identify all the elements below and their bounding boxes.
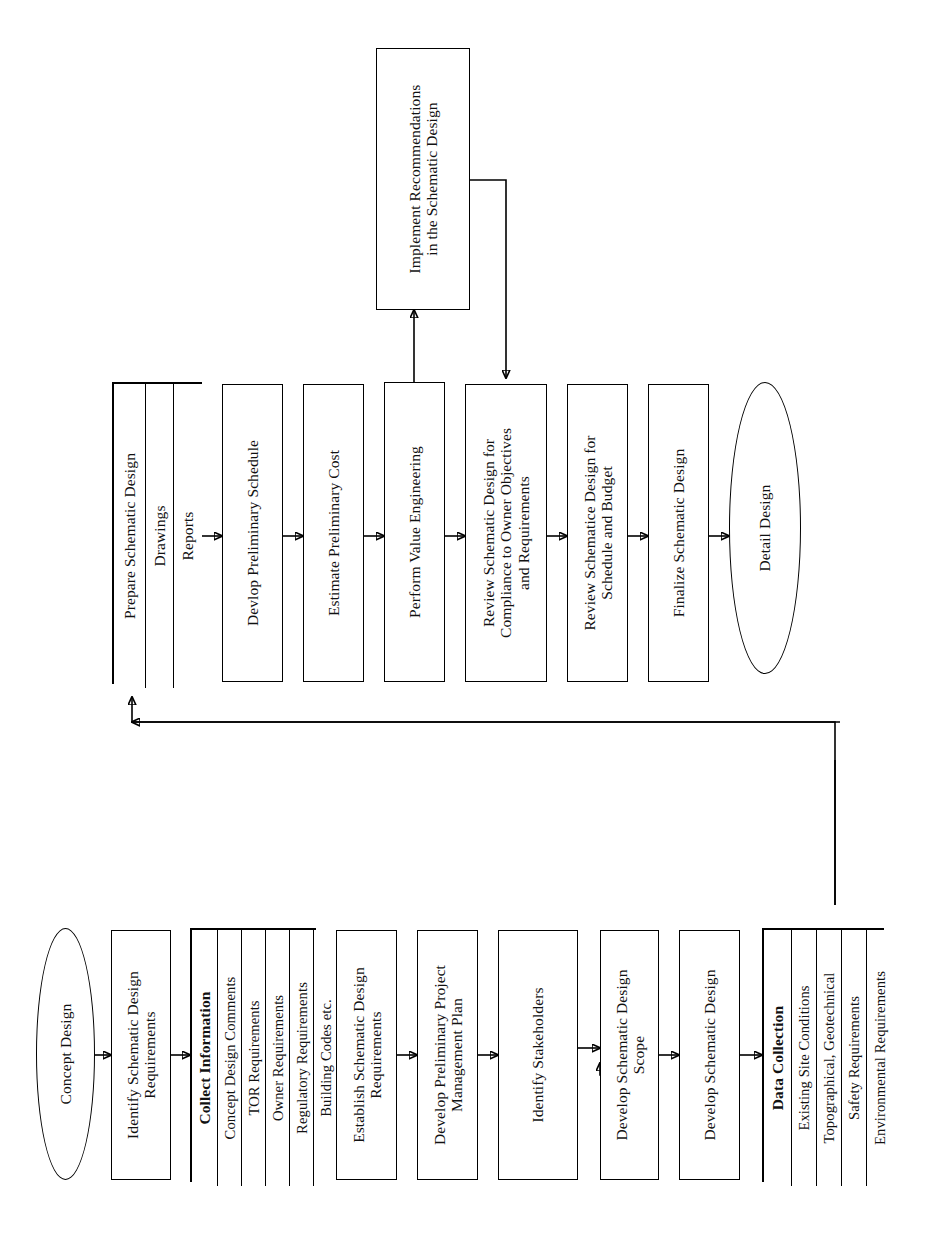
node-collect-concept-comments[interactable]: Concept Design Comments [218,930,242,1186]
flowchart-canvas: Implement Recommendations in the Schemat… [0,0,925,1243]
node-develop-preliminary-schedule[interactable]: Devlop Preliminary Schedule [222,384,283,682]
node-collect-tor-requirements[interactable]: TOR Requirements [242,930,266,1186]
node-label: Building Codes etc. [318,999,334,1116]
node-establish-requirements[interactable]: Establish Schematic Design Requirements [336,930,397,1180]
node-review-schedule-budget[interactable]: Review Schematice Design for Schedule an… [567,384,628,682]
node-estimate-preliminary-cost[interactable]: Estimate Preliminary Cost [303,384,364,682]
node-develop-pmp[interactable]: Develop Preliminary Project Management P… [417,930,478,1180]
node-label: Develop Schematic Design Scope [612,969,647,1140]
node-detail-design[interactable]: Detail Design [729,382,801,674]
node-label: Prepare Schematic Design [121,453,138,619]
node-label: Concept Design [57,1004,74,1105]
node-label: Review Schematice Design for Schedule an… [580,435,615,630]
link-implement-to-review [470,180,506,378]
node-label: Concept Design Comments [221,977,237,1140]
node-label: Finalize Schematic Design [670,449,687,618]
node-label: Existing Site Conditions [796,985,812,1130]
group-collect-information[interactable]: Collect Information Concept Design Comme… [190,928,316,1182]
node-identify-stakeholders[interactable]: Identify Stakeholders [498,930,578,1180]
node-data-collection[interactable]: Data Collection [764,930,792,1186]
node-develop-scope[interactable]: Develop Schematic Design Scope [600,930,659,1180]
node-label: Develop Preliminary Project Management P… [430,965,465,1145]
node-label: Safety Requirements [846,996,862,1120]
node-label: Reports [179,512,196,561]
node-collect-information[interactable]: Collect Information [192,930,218,1186]
node-label: Perform Value Engineering [406,446,423,618]
node-identify-requirements[interactable]: Identify Schematic Design Requirements [111,930,171,1180]
group-prepare-schematic-design[interactable]: Prepare Schematic Design Drawings Report… [112,382,202,684]
node-finalize-schematic-design[interactable]: Finalize Schematic Design [648,384,709,682]
node-label: Review Schematic Design for Compliance t… [480,428,532,638]
node-develop-schematic-design[interactable]: Develop Schematic Design [679,930,740,1180]
node-implement-recommendations[interactable]: Implement Recommendations in the Schemat… [376,48,470,310]
node-collect-owner-requirements[interactable]: Owner Requirements [266,930,290,1186]
node-label: Drawings [151,505,168,566]
node-review-compliance[interactable]: Review Schematic Design for Compliance t… [465,384,547,682]
node-data-safety[interactable]: Safety Requirements [842,930,867,1186]
node-label: Develop Schematic Design [701,969,718,1140]
node-data-existing-site[interactable]: Existing Site Conditions [792,930,817,1186]
node-label: Estimate Preliminary Cost [325,450,342,616]
node-data-topographical[interactable]: Topographical, Geotechnical [817,930,842,1186]
node-label: Data Collection [769,1006,786,1110]
node-label: Environmental Requirements [871,971,887,1145]
node-label: Identify Schematic Design Requirements [124,971,159,1139]
node-label: Detail Design [756,485,773,572]
group-data-collection[interactable]: Data Collection Existing Site Conditions… [762,928,884,1182]
node-label: Identify Stakeholders [529,987,546,1122]
node-prepare-schematic-design[interactable]: Prepare Schematic Design [114,384,146,688]
node-label: Owner Requirements [269,995,285,1121]
node-prepare-drawings[interactable]: Drawings [146,384,174,688]
node-label: Collect Information [196,991,213,1124]
node-collect-building-codes[interactable]: Building Codes etc. [314,930,338,1186]
node-prepare-reports[interactable]: Reports [174,384,202,688]
node-label: Implement Recommendations in the Schemat… [406,85,441,274]
node-label: TOR Requirements [245,1000,261,1115]
node-collect-regulatory-requirements[interactable]: Regulatory Requirements [290,930,314,1186]
node-label: Topographical, Geotechnical [821,972,837,1143]
node-label: Establish Schematic Design Requirements [349,967,384,1143]
node-concept-design[interactable]: Concept Design [36,928,95,1180]
node-label: Devlop Preliminary Schedule [244,440,261,626]
link-data-collection-feedback-loop [132,697,835,905]
node-label: Regulatory Requirements [293,982,309,1134]
node-data-environmental[interactable]: Environmental Requirements [867,930,892,1186]
node-perform-value-engineering[interactable]: Perform Value Engineering [384,382,445,682]
